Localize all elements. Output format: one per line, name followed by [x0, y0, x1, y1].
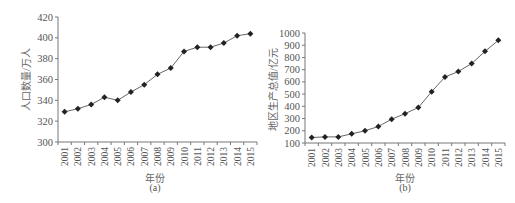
x-tick-label: 2012 [454, 148, 464, 167]
data-point-marker [247, 31, 253, 37]
y-tick-label: 420 [37, 12, 53, 23]
x-tick-label: 2007 [387, 148, 397, 167]
x-tick-label: 2006 [126, 147, 136, 166]
x-tick-label: 2004 [347, 148, 357, 167]
y-tick-label: 800 [284, 52, 300, 63]
x-tick-label: 2015 [246, 147, 256, 166]
data-point-marker [88, 102, 94, 108]
y-axis-label-gdp: 地区生产总值/亿元 [265, 40, 280, 140]
x-tick-label: 2005 [361, 148, 371, 167]
data-line [312, 40, 499, 137]
data-point-marker [322, 134, 328, 140]
x-tick-label: 2011 [193, 147, 203, 166]
x-tick-label: 2010 [427, 148, 437, 167]
data-point-marker [221, 40, 227, 46]
data-point-marker [362, 128, 368, 134]
data-point-marker [375, 124, 381, 130]
x-tick-label: 2012 [206, 147, 216, 166]
x-tick-label: 2005 [113, 147, 123, 166]
x-tick-label: 2013 [219, 147, 229, 166]
data-point-marker [115, 97, 121, 103]
y-tick-label: 380 [37, 53, 53, 64]
y-tick-label: 100 [284, 138, 300, 149]
x-tick-label: 2014 [233, 147, 243, 166]
y-tick-label: 300 [37, 137, 53, 148]
y-tick-label: 500 [284, 89, 300, 100]
data-point-marker [101, 94, 107, 100]
y-tick-label: 600 [284, 76, 300, 87]
x-tick-label: 2001 [60, 147, 70, 166]
x-tick-label: 2007 [140, 147, 150, 166]
x-tick-label: 2009 [414, 148, 424, 167]
y-tick-label: 300 [284, 113, 300, 124]
data-point-marker [335, 134, 341, 140]
x-tick-label: 2010 [180, 147, 190, 166]
y-tick-label: 320 [37, 116, 53, 127]
data-point-marker [128, 89, 134, 95]
chart-gdp: 1002003004005006007008009001000200120022… [258, 0, 515, 203]
x-tick-label: 2002 [73, 147, 83, 166]
y-tick-label: 360 [37, 74, 53, 85]
x-tick-label: 2009 [166, 147, 176, 166]
x-tick-label: 2002 [321, 148, 331, 167]
data-point-marker [194, 44, 200, 50]
chart-population: 3003203403603804004202001200220032004200… [0, 0, 258, 203]
data-point-marker [349, 131, 355, 137]
data-point-marker [455, 69, 461, 75]
y-tick-label: 400 [284, 101, 300, 112]
x-tick-label: 2008 [153, 147, 163, 166]
x-tick-label: 2008 [401, 148, 411, 167]
data-point-marker [208, 44, 214, 50]
y-tick-label: 400 [37, 32, 53, 43]
data-point-marker [62, 109, 68, 115]
plot-area-population: 3003203403603804004202001200220032004200… [0, 0, 258, 203]
y-tick-label: 700 [284, 64, 300, 75]
data-point-marker [389, 116, 395, 122]
data-point-marker [309, 135, 315, 141]
y-tick-label: 900 [284, 40, 300, 51]
caption-b: (b) [390, 182, 420, 193]
y-tick-label: 200 [284, 125, 300, 136]
x-tick-label: 2004 [100, 147, 110, 166]
x-tick-label: 2006 [374, 148, 384, 167]
data-point-marker [402, 111, 408, 117]
x-tick-label: 2015 [494, 148, 504, 167]
x-tick-label: 2001 [307, 148, 317, 167]
y-axis-label-population: 人口数量/万人 [18, 35, 33, 125]
x-tick-label: 2011 [441, 148, 451, 167]
caption-a: (a) [140, 182, 170, 193]
x-tick-label: 2003 [87, 147, 97, 166]
data-point-marker [234, 33, 240, 39]
data-point-marker [75, 106, 81, 112]
y-tick-label: 1000 [279, 28, 300, 39]
y-tick-label: 340 [37, 95, 53, 106]
x-tick-label: 2014 [481, 148, 491, 167]
x-tick-label: 2013 [467, 148, 477, 167]
x-tick-label: 2003 [334, 148, 344, 167]
